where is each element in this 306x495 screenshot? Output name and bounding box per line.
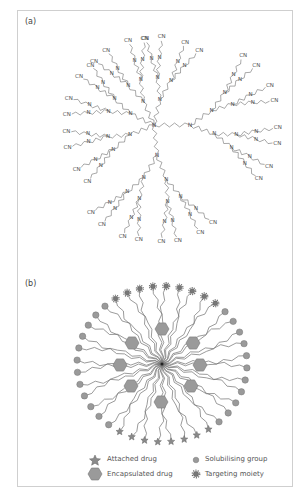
attached-drug-star-icon [90, 455, 101, 465]
encapsulated-drug-hexagon-icon [88, 468, 102, 480]
legend-label-solubilising-group: Solubilising group [205, 455, 267, 463]
legend-label-targeting-moiety: Targeting moiety [205, 470, 264, 478]
solubilising-group-circle-icon [193, 457, 199, 463]
legend-label-attached-drug: Attached drug [107, 455, 157, 463]
targeting-moiety-gear-icon [192, 470, 200, 478]
legend-symbols [0, 0, 306, 495]
legend-label-encapsulated-drug: Encapsulated drug [107, 470, 173, 478]
